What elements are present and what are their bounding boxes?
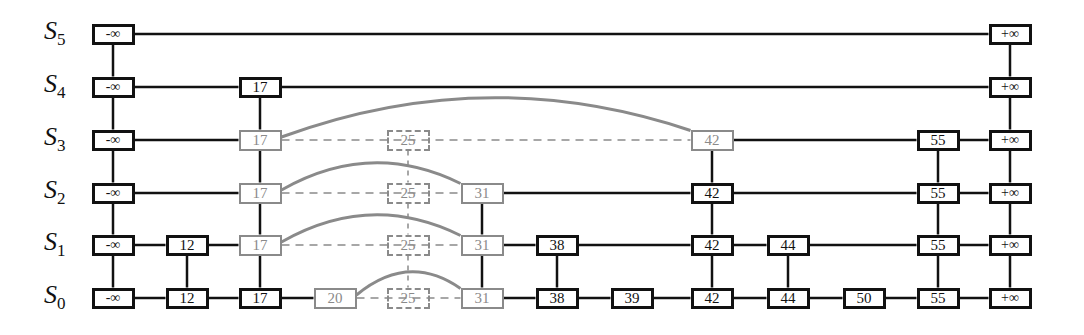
node-s2-55: 55: [917, 183, 960, 204]
node-s3-neg-inf: -∞: [92, 130, 135, 151]
node-s0-20: 20: [314, 288, 357, 309]
node-s5-neg-inf: -∞: [92, 24, 135, 45]
node-s2-42: 42: [691, 183, 734, 204]
node-s5-pos-inf: +∞: [989, 24, 1032, 45]
node-s4-neg-inf: -∞: [92, 77, 135, 98]
node-s0-39: 39: [611, 288, 654, 309]
node-s1-42: 42: [691, 235, 734, 256]
level-label-s3: S3: [44, 124, 66, 154]
node-s2-pos-inf: +∞: [989, 183, 1032, 204]
node-s4-17: 17: [239, 77, 282, 98]
node-s2-25: 25: [387, 183, 430, 204]
node-s1-pos-inf: +∞: [989, 235, 1032, 256]
node-s0-50: 50: [843, 288, 886, 309]
node-s3-17: 17: [239, 130, 282, 151]
node-s3-42: 42: [691, 130, 734, 151]
node-s1-12: 12: [166, 235, 209, 256]
skip-list-diagram: [0, 0, 1084, 335]
new-link-arc: [282, 215, 461, 242]
node-s0-25: 25: [387, 288, 430, 309]
node-s3-25: 25: [387, 130, 430, 151]
node-s2-neg-inf: -∞: [92, 183, 135, 204]
node-s0-neg-inf: -∞: [92, 288, 135, 309]
new-link-arc: [282, 163, 461, 190]
level-label-s2: S2: [44, 177, 66, 207]
node-s2-31: 31: [461, 183, 504, 204]
node-s1-31: 31: [461, 235, 504, 256]
node-s3-55: 55: [917, 130, 960, 151]
node-s3-pos-inf: +∞: [989, 130, 1032, 151]
node-s2-17: 17: [239, 183, 282, 204]
node-s0-44: 44: [767, 288, 810, 309]
node-s0-42: 42: [691, 288, 734, 309]
node-s0-12: 12: [166, 288, 209, 309]
node-s1-neg-inf: -∞: [92, 235, 135, 256]
level-label-s5: S5: [44, 18, 66, 48]
node-s1-55: 55: [917, 235, 960, 256]
node-s1-17: 17: [239, 235, 282, 256]
level-label-s1: S1: [44, 229, 66, 259]
new-link-arc: [282, 98, 691, 137]
node-s4-pos-inf: +∞: [989, 77, 1032, 98]
node-s0-17: 17: [239, 288, 282, 309]
level-label-s0: S0: [44, 282, 66, 312]
node-s1-25: 25: [387, 235, 430, 256]
level-label-s4: S4: [44, 71, 66, 101]
node-s0-pos-inf: +∞: [989, 288, 1032, 309]
node-s1-44: 44: [767, 235, 810, 256]
node-s1-38: 38: [536, 235, 579, 256]
node-s0-31: 31: [461, 288, 504, 309]
node-s0-38: 38: [536, 288, 579, 309]
node-s0-55: 55: [917, 288, 960, 309]
